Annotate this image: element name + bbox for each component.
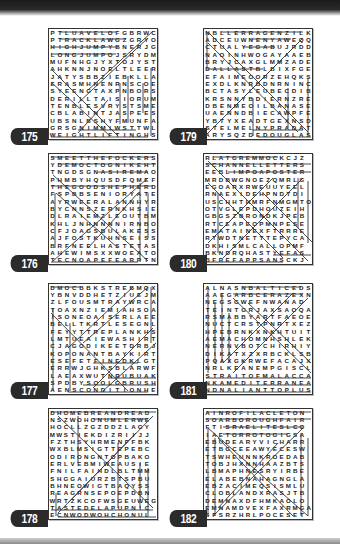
grid-letter: T <box>231 235 238 242</box>
grid-letter: T <box>121 66 128 73</box>
grid-letter: I <box>107 191 114 198</box>
grid-letter: Z <box>99 213 106 220</box>
grid-letter: A <box>233 66 240 73</box>
grid-letter: N <box>269 321 276 328</box>
grid-letter: I <box>99 132 106 139</box>
grid-letter: F <box>254 299 261 306</box>
grid-letter: N <box>283 299 290 306</box>
grid-letter: P <box>92 257 99 264</box>
grid-letter: A <box>226 387 233 394</box>
grid-letter: B <box>49 321 56 328</box>
grid-letter: R <box>135 365 142 372</box>
grid-letter: C <box>269 110 276 117</box>
grid-letter: B <box>218 446 225 453</box>
grid-letter: L <box>262 66 269 73</box>
grid-letter: L <box>305 365 312 372</box>
grid-letter: T <box>99 299 106 306</box>
grid-letter: A <box>63 343 70 350</box>
grid-letter: L <box>224 169 231 176</box>
puzzle-number-badge: 175 <box>11 128 48 145</box>
grid-letter: F <box>49 191 56 198</box>
letter-grid: PTLUAVELOFGBRWCPTRACKLAWGZGRYOHIGHJUMPYB… <box>48 28 158 140</box>
grid-letter: L <box>107 213 114 220</box>
grid-letter: P <box>285 213 292 220</box>
grid-letter: W <box>218 235 225 242</box>
grid-letter: O <box>71 299 78 306</box>
grid-letter: I <box>238 191 245 198</box>
grid-letter: B <box>204 88 211 95</box>
grid-letter: L <box>76 424 83 431</box>
grid-letter: N <box>130 512 137 519</box>
grid-letter: N <box>121 88 128 95</box>
grid-letter: O <box>99 66 106 73</box>
grid-letter: L <box>226 66 233 73</box>
top-header-bar <box>0 0 340 16</box>
grid-letter: E <box>128 169 135 176</box>
grid-letter: R <box>204 235 211 242</box>
grid-letter: U <box>85 44 92 51</box>
grid-letter: X <box>231 191 238 198</box>
grid-letter: O <box>135 88 142 95</box>
grid-letter: G <box>137 424 144 431</box>
grid-letter: S <box>285 512 292 519</box>
grid-letter: S <box>290 365 297 372</box>
grid-letter: B <box>247 110 254 117</box>
grid-letter: E <box>56 132 63 139</box>
grid-letter: E <box>278 512 285 519</box>
grid-letter: S <box>78 169 85 176</box>
puzzle-number-badge: 182 <box>170 510 207 527</box>
grid-letter <box>305 446 312 453</box>
grid-letter: E <box>272 446 279 453</box>
grid-letter: B <box>211 213 218 220</box>
grid-letter: P <box>258 512 265 519</box>
grid-letter: C <box>49 110 56 117</box>
grid-letter: D <box>83 512 90 519</box>
grid-letter: N <box>218 387 225 394</box>
puzzle-178: DHOMEBREANDREADNSZWOHONUMLERWEHOCLLZGZDD… <box>48 408 158 520</box>
grid-letter: A <box>150 299 157 306</box>
grid-letter: C <box>204 44 211 51</box>
grid-letter: J <box>285 490 292 497</box>
grid-letter: D <box>224 235 231 242</box>
grid-letter: L <box>251 424 258 431</box>
grid-letter: T <box>254 321 261 328</box>
grid-letter: J <box>78 44 85 51</box>
grid-letter <box>305 242 312 249</box>
grid-letter: I <box>258 424 265 431</box>
grid-letter <box>305 154 312 161</box>
puzzle-number-badge: 181 <box>170 382 207 399</box>
grid-letter: E <box>211 343 218 350</box>
grid-letter: B <box>254 66 261 73</box>
grid-letter: Y <box>56 88 63 95</box>
grid-letter: U <box>204 110 211 117</box>
grid-letter: H <box>96 468 103 475</box>
grid-letter: G <box>135 132 142 139</box>
grid-letter <box>305 169 312 176</box>
grid-letter: A <box>272 490 279 497</box>
grid-letter: H <box>143 132 150 139</box>
grid-letter: O <box>121 213 128 220</box>
grid-letter: N <box>305 291 312 298</box>
grid-letter: N <box>121 44 128 51</box>
grid-letter: D <box>247 132 254 139</box>
grid-letter: O <box>114 191 121 198</box>
grid-letter: B <box>56 110 63 117</box>
grid-letter: A <box>135 191 142 198</box>
grid-letter: H <box>143 387 150 394</box>
grid-letter: E <box>285 446 292 453</box>
grid-letter: E <box>107 66 114 73</box>
grid-letter: E <box>251 468 258 475</box>
grid-letter: J <box>143 44 150 51</box>
grid-letter: S <box>240 66 247 73</box>
grid-letter: M <box>92 213 99 220</box>
grid-letter: E <box>245 235 252 242</box>
grid-letter: D <box>290 88 297 95</box>
grid-letter: A <box>240 365 247 372</box>
grid-letter: A <box>265 257 272 264</box>
grid-letter: X <box>258 490 265 497</box>
grid-letter: E <box>63 88 70 95</box>
grid-letter: O <box>71 235 78 242</box>
grid-letter: H <box>117 512 124 519</box>
puzzle-176: SMEETTHEFOCKERSYDEMOCTOGNIKEHTTNGDSGNASI… <box>48 153 158 265</box>
grid-letter: K <box>85 321 92 328</box>
